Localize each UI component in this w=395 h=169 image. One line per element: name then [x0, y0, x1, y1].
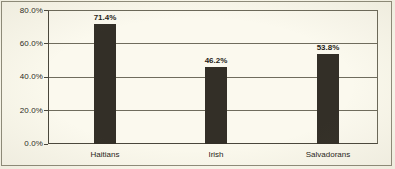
y-tick-mark-0: [44, 144, 48, 145]
y-tick-label-60: 60.0%: [0, 39, 43, 48]
bar-chart-screenshot: 80.0% 60.0% 40.0% 20.0% 0.0% 71.4% 46.2%…: [0, 0, 395, 169]
bar-value-irish: 46.2%: [186, 56, 246, 65]
bar-value-salvadorans: 53.8%: [298, 43, 358, 52]
y-tick-label-0: 0.0%: [0, 139, 43, 148]
y-tick-label-20: 20.0%: [0, 106, 43, 115]
bar-haitians: [94, 24, 116, 144]
y-tick-label-80: 80.0%: [0, 6, 43, 15]
category-label-salvadorans: Salvadorans: [293, 150, 363, 159]
category-label-irish: Irish: [181, 150, 251, 159]
bar-salvadorans: [317, 54, 339, 144]
bar-irish: [205, 67, 227, 144]
bar-value-haitians: 71.4%: [75, 13, 135, 22]
category-label-haitians: Haitians: [70, 150, 140, 159]
y-tick-label-40: 40.0%: [0, 72, 43, 81]
